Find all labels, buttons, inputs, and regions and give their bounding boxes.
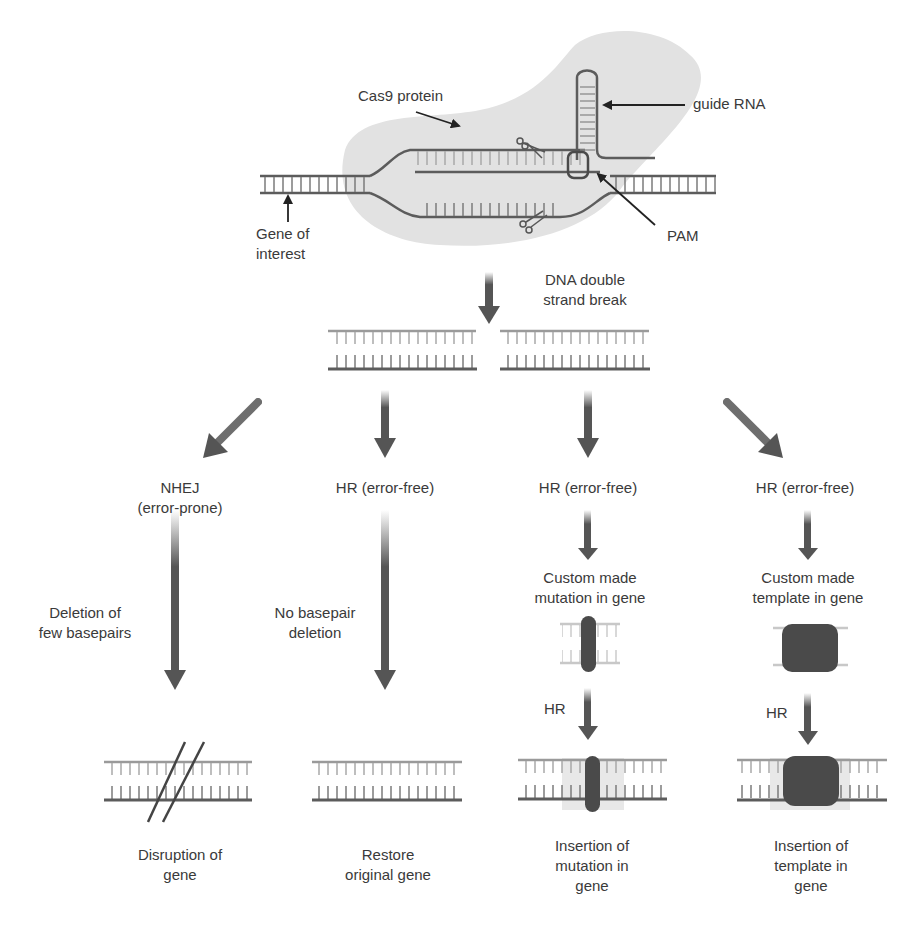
result-label-hr-template: Insertion of template in gene: [741, 836, 881, 896]
arrow-mutation-2: [578, 688, 598, 740]
step-label-hr-restore: No basepair deletion: [250, 603, 380, 643]
template-fragment: [773, 624, 848, 672]
arrow-template-1: [798, 510, 818, 560]
result-label-nhej: Disruption of gene: [110, 845, 250, 885]
result-dna-disrupted: [104, 742, 252, 822]
crispr-cas9-diagram: [0, 0, 915, 926]
intermediate-mutation-label: Custom made mutation in gene: [515, 568, 665, 608]
result-dna-template: [737, 756, 887, 810]
pathway-title-hr-template: HR (error-free): [740, 478, 870, 498]
arrow-to-hr-mutation: [577, 390, 599, 458]
step-label-hr-template: HR: [766, 703, 788, 723]
cas9-protein-label: Cas9 protein: [358, 86, 443, 106]
pam-label: PAM: [667, 226, 698, 246]
arrow-to-break: [478, 272, 500, 324]
dna-double-strand-break-label: DNA double strand break: [530, 270, 640, 310]
mutation-fragment: [560, 616, 620, 672]
intermediate-template-label: Custom made template in gene: [733, 568, 883, 608]
step-label-hr-mutation: HR: [544, 699, 566, 719]
arrow-template-2: [798, 693, 818, 745]
arrow-to-nhej: [203, 402, 258, 458]
result-dna-restored: [312, 762, 462, 800]
arrow-to-hr-template: [727, 402, 783, 458]
pathway-title-hr-mutation: HR (error-free): [523, 478, 653, 498]
arrow-hr-restore-long: [374, 510, 396, 690]
double-strand-break-right: [500, 331, 650, 369]
double-strand-break-left: [328, 331, 477, 369]
arrow-to-hr-restore: [374, 390, 396, 458]
result-label-hr-mutation: Insertion of mutation in gene: [522, 836, 662, 896]
pathway-title-hr-restore: HR (error-free): [320, 478, 450, 498]
step-label-nhej: Deletion of few basepairs: [20, 603, 150, 643]
result-label-hr-restore: Restore original gene: [318, 845, 458, 885]
result-dna-mutation: [518, 756, 667, 812]
guide-rna-label: guide RNA: [693, 94, 766, 114]
gene-of-interest-label: Gene of interest: [256, 224, 309, 264]
pathway-title-nhej: NHEJ (error-prone): [120, 478, 240, 518]
arrow-mutation-1: [578, 510, 598, 560]
arrow-nhej-long: [164, 510, 186, 690]
